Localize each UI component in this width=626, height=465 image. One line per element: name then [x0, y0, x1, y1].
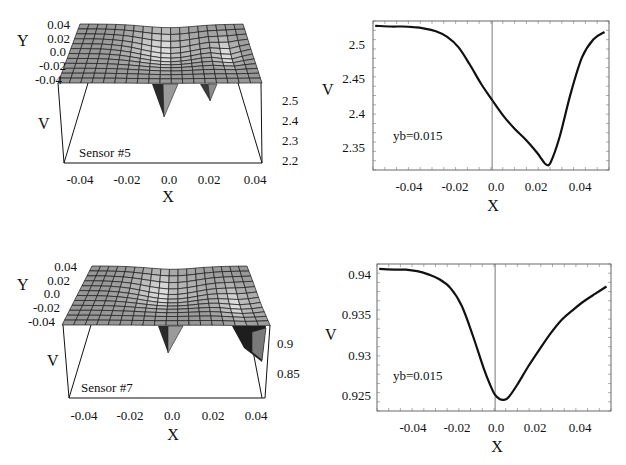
plot-frame [377, 264, 611, 411]
y-tick: 2.5 [349, 37, 365, 52]
x-tick: 0.0 [164, 408, 180, 423]
y-tick: 0.04 [54, 259, 77, 274]
x-axis-label: X [491, 438, 503, 455]
box-edge-right [261, 83, 262, 163]
annotation: yb=0.015 [393, 368, 443, 383]
z-tick: 2.3 [282, 133, 298, 148]
y-tick: 0.93 [348, 348, 371, 363]
figure: 0.04 0.02 0.0 -0.02 -0.04 Y V 2.5 2.4 2.… [0, 0, 626, 465]
y-tick: -0.04 [28, 314, 56, 329]
surface-mesh [62, 266, 270, 326]
z-tick: 0.85 [277, 366, 300, 381]
z-tick: 2.5 [282, 93, 298, 108]
x-tick: 0.04 [569, 179, 592, 194]
x-axis-label: X [167, 426, 179, 443]
box-edge-left [63, 325, 69, 398]
plot-frame [373, 21, 609, 170]
x-tick: -0.02 [441, 179, 468, 194]
x-tick: -0.02 [443, 420, 470, 435]
x-tick: -0.04 [66, 172, 94, 187]
y-tick: 0.94 [348, 267, 371, 282]
sensor-label: Sensor #5 [79, 145, 131, 160]
sensor-label: Sensor #7 [81, 380, 133, 395]
y-tick: 0.04 [47, 17, 70, 32]
y-tick: -0.02 [39, 58, 66, 73]
z-tick: 0.9 [277, 336, 293, 351]
z-tick: 2.4 [282, 113, 299, 128]
x-tick: -0.04 [70, 408, 98, 423]
y-tick: -0.02 [33, 300, 60, 315]
surface-mesh [58, 24, 262, 83]
y-axis-label: V [322, 81, 334, 98]
x-tick: 0.02 [525, 179, 548, 194]
y-tick: 2.45 [342, 71, 365, 86]
z-axis-label: V [47, 352, 59, 369]
x-tick: -0.02 [113, 172, 140, 187]
frame-ticks [373, 21, 609, 170]
y-axis-label: Y [17, 32, 29, 49]
y-tick: 0.925 [342, 388, 371, 403]
x-tick: 0.04 [245, 408, 268, 423]
frame-ticks [377, 264, 611, 411]
y-tick: -0.04 [35, 72, 63, 87]
y-tick: 0.0 [44, 286, 60, 301]
x-tick: 0.02 [198, 172, 221, 187]
x-tick: 0.02 [524, 420, 547, 435]
x-axis-label: X [162, 188, 174, 205]
box-edge-right [265, 325, 270, 398]
y-tick: 2.4 [349, 106, 366, 121]
y-tick: 0.0 [50, 44, 66, 59]
sensor7-profile-panel: 0.94 0.935 0.93 0.925 V yb=0.015 -0.04 -… [325, 264, 611, 455]
x-tick: 0.0 [488, 179, 504, 194]
y-tick: 0.935 [342, 307, 371, 322]
x-tick: 0.04 [569, 420, 592, 435]
sensor7-surface-panel: 0.04 0.02 0.0 -0.02 -0.04 Y V 0.9 0.85 S… [17, 259, 300, 443]
x-tick: 0.0 [161, 172, 177, 187]
z-axis-label: V [38, 115, 50, 132]
x-axis-label: X [487, 197, 499, 214]
sensor5-surface-panel: 0.04 0.02 0.0 -0.02 -0.04 Y V 2.5 2.4 2.… [17, 17, 299, 205]
dip-spike-face [168, 326, 183, 353]
y-axis-label: Y [17, 276, 29, 293]
x-tick: 0.0 [488, 420, 504, 435]
x-tick: -0.04 [399, 420, 427, 435]
y-axis-label: V [325, 326, 337, 343]
x-tick: 0.04 [244, 172, 267, 187]
profile-curve [375, 26, 604, 166]
sensor5-profile-panel: 2.5 2.45 2.4 2.35 V yb=0.015 -0.04 -0.02… [322, 21, 609, 214]
x-tick: -0.02 [116, 408, 143, 423]
annotation: yb=0.015 [393, 128, 443, 143]
z-tick: 2.2 [282, 153, 298, 168]
y-tick: 2.35 [342, 140, 365, 155]
x-tick: 0.02 [202, 408, 225, 423]
x-tick: -0.04 [395, 179, 423, 194]
box-diag-right [238, 83, 262, 163]
